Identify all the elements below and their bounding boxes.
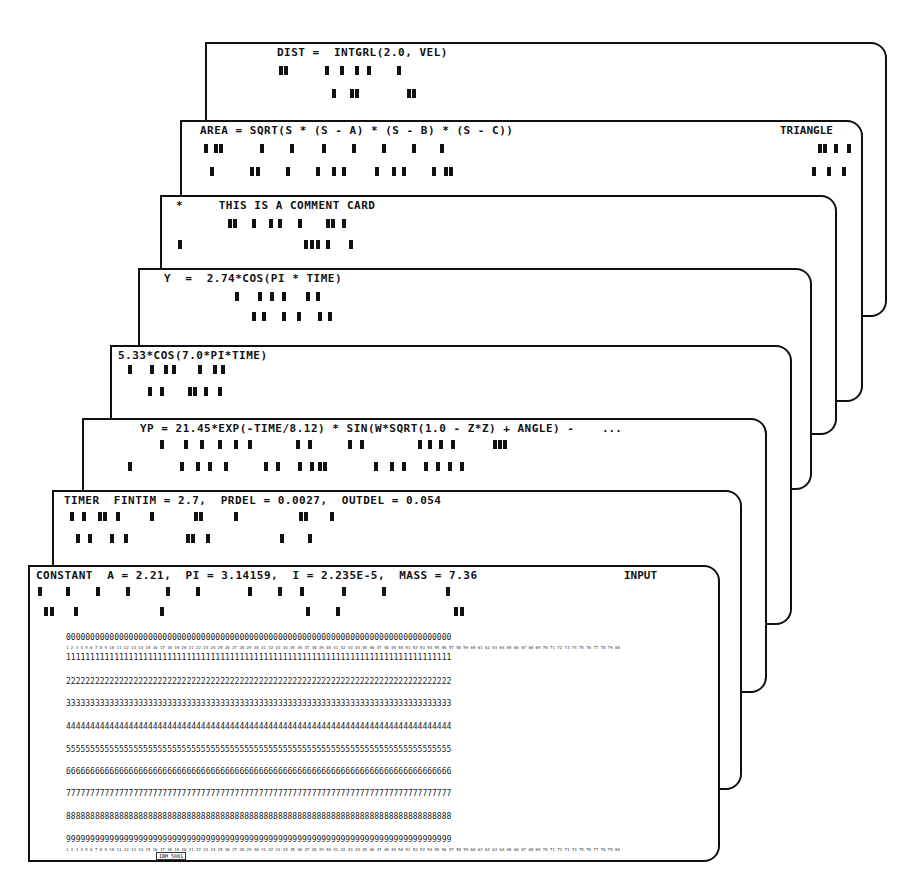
punch-row-11 <box>54 534 740 543</box>
digit-row-6: 6666666666666666666666666666666666666666… <box>66 767 694 777</box>
punch-row-12 <box>207 66 885 75</box>
card-label: INPUT <box>624 569 657 582</box>
card-label: TRIANGLE <box>780 124 833 137</box>
card-statement: * THIS IS A COMMENT CARD <box>176 199 375 212</box>
punch-row-12 <box>112 365 790 374</box>
card-stock-label: IBM 5081 <box>156 852 186 860</box>
digit-row-4: 4444444444444444444444444444444444444444… <box>66 722 694 732</box>
punch-row-12 <box>162 219 835 228</box>
punch-row-11 <box>182 167 861 176</box>
card-statement: DIST = INTGRL(2.0, VEL) <box>277 46 448 59</box>
card-statement: AREA = SQRT(S * (S - A) * (S - B) * (S -… <box>200 124 513 137</box>
card-statement: 5.33*COS(7.0*PI*TIME) <box>118 349 268 362</box>
punch-row-11 <box>207 89 885 98</box>
digit-row-2: 2222222222222222222222222222222222222222… <box>66 677 694 687</box>
punch-row-11 <box>84 462 765 471</box>
digit-row-5: 5555555555555555555555555555555555555555… <box>66 745 694 755</box>
punch-row-12 <box>30 587 718 596</box>
punch-row-12 <box>54 512 740 521</box>
card-statement: TIMER FINTIM = 2.7, PRDEL = 0.0027, OUTD… <box>64 494 442 507</box>
punch-row-11 <box>162 240 835 249</box>
punch-row-12 <box>140 292 810 301</box>
punch-row-11 <box>112 387 790 396</box>
card-continuation: ... <box>602 422 622 435</box>
punch-row-11 <box>140 312 810 321</box>
punch-row-12 <box>182 144 861 153</box>
card-statement: CONSTANT A = 2.21, PI = 3.14159, I = 2.2… <box>36 569 478 582</box>
digit-row-8: 8888888888888888888888888888888888888888… <box>66 812 694 822</box>
digit-row-7: 7777777777777777777777777777777777777777… <box>66 789 694 799</box>
card-statement: YP = 21.45*EXP(-TIME/8.12) * SIN(W*SQRT(… <box>140 422 574 435</box>
digit-row-3: 3333333333333333333333333333333333333333… <box>66 699 694 709</box>
digit-row-0: 0000000000000000000000000000000000000000… <box>66 633 694 643</box>
punched-card-constant: CONSTANT A = 2.21, PI = 3.14159, I = 2.2… <box>28 565 720 862</box>
digit-row-9: 9999999999999999999999999999999999999999… <box>66 835 694 845</box>
digit-row-1: 1111111111111111111111111111111111111111… <box>66 653 694 663</box>
card-statement: Y = 2.74*COS(PI * TIME) <box>164 272 342 285</box>
punch-row-12 <box>84 440 765 449</box>
column-numbers-top: 1 2 3 4 5 6 7 8 9 10 11 12 13 14 15 16 1… <box>66 645 694 650</box>
punch-row-11 <box>30 607 718 616</box>
